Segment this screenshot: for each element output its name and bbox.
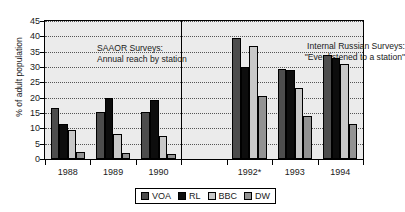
- bar-bbc-1990: [159, 136, 168, 159]
- bar-dw-1994: [349, 124, 358, 159]
- x-axis-tick-mark: [136, 160, 137, 165]
- legend-swatch-icon: [178, 192, 186, 200]
- x-axis-tick-mark: [45, 160, 46, 165]
- bar-dw-1988: [76, 152, 85, 159]
- bar-rl-1989: [105, 98, 114, 159]
- bar-group: [272, 21, 317, 159]
- bar-rl-1990: [150, 100, 159, 159]
- y-axis-tick-label: 10: [0, 124, 40, 133]
- bar-group: [136, 21, 181, 159]
- bar-bbc-1988: [68, 130, 77, 159]
- legend-item-voa: VOA: [141, 191, 171, 201]
- bar-voa-1994: [323, 55, 332, 159]
- bar-bbc-1992*: [249, 46, 258, 159]
- legend-swatch-icon: [244, 192, 252, 200]
- y-axis-tick-label: 30: [0, 63, 40, 72]
- y-axis-tick-label: 40: [0, 32, 40, 41]
- x-axis-tick-mark: [318, 160, 319, 165]
- legend-swatch-icon: [141, 192, 149, 200]
- legend-item-bbc: BBC: [208, 191, 238, 201]
- y-axis-tick-label: 20: [0, 94, 40, 103]
- legend-label: VOA: [152, 191, 171, 201]
- x-axis-label-1993: 1993: [272, 167, 317, 178]
- bar-dw-1993: [303, 116, 312, 159]
- bar-rl-1993: [286, 70, 295, 159]
- bar-voa-1988: [51, 108, 60, 159]
- bar-rl-1994: [332, 58, 341, 159]
- y-axis-tick-label: 25: [0, 78, 40, 87]
- plot-area: SAAOR Surveys: Annual reach by station I…: [44, 20, 364, 160]
- x-axis-tick-mark: [181, 160, 182, 165]
- legend-item-dw: DW: [244, 191, 270, 201]
- bar-rl-1992*: [241, 67, 250, 159]
- y-axis-tick-label: 5: [0, 140, 40, 149]
- x-axis-tick-mark: [90, 160, 91, 165]
- x-axis: 1988198919901992*19931994: [44, 160, 364, 182]
- bar-voa-1993: [278, 69, 287, 159]
- bar-bbc-1994: [340, 64, 349, 159]
- bar-dw-1990: [167, 154, 176, 159]
- y-axis-tick-labels: 051015202530354045: [0, 20, 40, 160]
- bar-voa-1992*: [232, 38, 241, 159]
- bar-group: [45, 21, 90, 159]
- bar-series-layer: [45, 21, 363, 159]
- bar-dw-1989: [122, 153, 131, 159]
- x-axis-tick-mark: [363, 160, 364, 165]
- bar-voa-1990: [141, 112, 150, 159]
- x-axis-label-1990: 1990: [136, 167, 181, 178]
- y-axis-tick-label: 0: [0, 155, 40, 164]
- bar-group: [318, 21, 363, 159]
- bar-group: [227, 21, 272, 159]
- bar-rl-1988: [59, 124, 68, 159]
- legend-label: BBC: [219, 191, 238, 201]
- bar-voa-1989: [96, 112, 105, 159]
- bar-bbc-1993: [295, 88, 304, 159]
- x-axis-label-1988: 1988: [45, 167, 90, 178]
- bar-dw-1992*: [258, 96, 267, 159]
- legend-label: RL: [189, 191, 201, 201]
- x-axis-label-1994: 1994: [318, 167, 363, 178]
- y-axis-tick-label: 45: [0, 17, 40, 26]
- legend-label: DW: [255, 191, 270, 201]
- y-axis-tick-label: 35: [0, 48, 40, 57]
- bar-bbc-1989: [113, 134, 122, 159]
- legend: VOARLBBCDW: [135, 188, 276, 204]
- x-axis-tick-mark: [272, 160, 273, 165]
- x-axis-label-1989: 1989: [90, 167, 135, 178]
- y-axis-tick-label: 15: [0, 109, 40, 118]
- legend-item-rl: RL: [178, 191, 201, 201]
- x-axis-tick-mark: [227, 160, 228, 165]
- legend-swatch-icon: [208, 192, 216, 200]
- bar-group: [181, 21, 226, 159]
- bar-group: [90, 21, 135, 159]
- x-axis-label-1992: 1992*: [227, 167, 272, 178]
